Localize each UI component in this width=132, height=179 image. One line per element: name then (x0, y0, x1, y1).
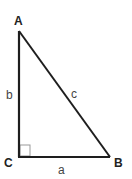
side-label-b: b (6, 88, 13, 102)
right-angle-marker (20, 145, 30, 156)
right-triangle-diagram: A C B b c a (0, 0, 132, 179)
vertex-label-b: B (114, 156, 123, 170)
vertex-label-a: A (14, 14, 23, 28)
side-label-a: a (58, 163, 65, 177)
vertex-label-c: C (4, 156, 13, 170)
side-label-c: c (71, 87, 77, 101)
side-c-line (19, 31, 110, 157)
